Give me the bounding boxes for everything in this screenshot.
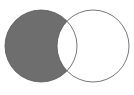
venn-diagram-figure: Venn diagram: [0, 0, 134, 95]
venn-diagram-canvas: Venn diagram: [0, 0, 134, 95]
